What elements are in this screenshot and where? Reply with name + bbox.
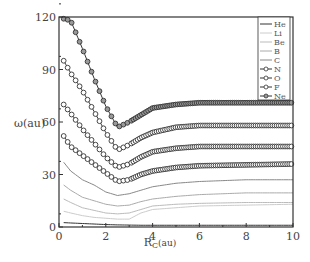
x-axis-label: RC(au) bbox=[144, 236, 177, 250]
legend-entry-Be: Be bbox=[274, 38, 285, 47]
y-tick-label: 120 bbox=[35, 11, 56, 24]
y-axis-label: ω(au) bbox=[14, 117, 45, 130]
x-tick-label: 0 bbox=[56, 230, 63, 243]
legend-entry-Li: Li bbox=[274, 29, 282, 38]
legend-entry-F: F bbox=[274, 83, 280, 92]
x-tick-label: 6 bbox=[196, 230, 203, 243]
x-tick-label: 8 bbox=[243, 230, 250, 243]
legend-entry-B: B bbox=[274, 47, 280, 56]
y-tick-label: 90 bbox=[42, 64, 56, 77]
x-tick-label: 10 bbox=[286, 230, 300, 243]
legend: HeLiBeBCNOFNe bbox=[258, 17, 290, 101]
legend-entry-He: He bbox=[274, 20, 286, 29]
series-He bbox=[64, 223, 293, 226]
legend-entry-C: C bbox=[274, 56, 280, 65]
chart: 03060901200246810 HeLiBeBCNOFNe ω(au) RC… bbox=[0, 0, 310, 262]
series-N bbox=[61, 134, 293, 184]
y-tick-label: 30 bbox=[42, 169, 56, 182]
x-tick-label: 2 bbox=[102, 230, 109, 243]
legend-entry-Ne: Ne bbox=[274, 92, 286, 101]
legend-entry-O: O bbox=[274, 74, 281, 83]
series-Be bbox=[64, 199, 293, 214]
legend-entry-N: N bbox=[274, 65, 281, 74]
